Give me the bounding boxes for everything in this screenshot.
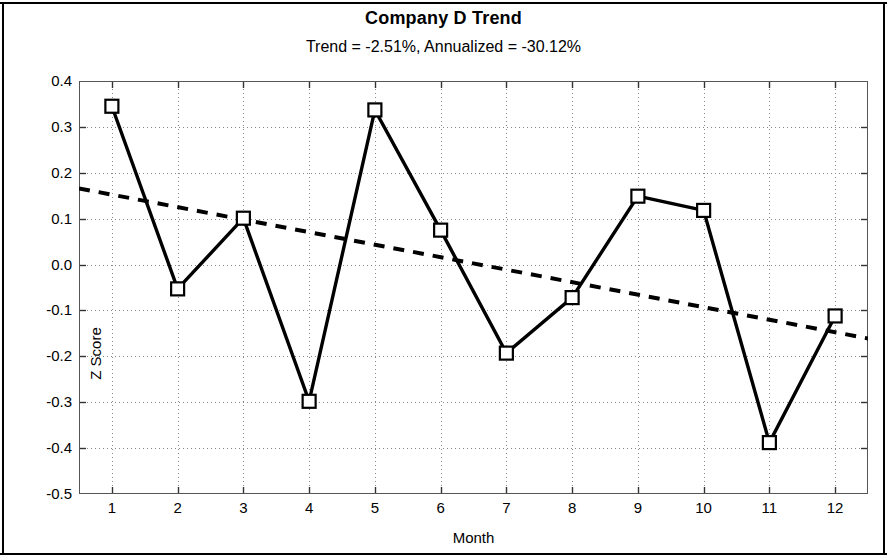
y-tick-label: -0.2 <box>28 348 72 363</box>
x-tick-label: 6 <box>421 500 461 515</box>
chart-title: Company D Trend <box>0 8 887 29</box>
data-point-marker <box>171 282 184 295</box>
x-tick-label: 3 <box>223 500 263 515</box>
data-point-marker <box>631 190 644 203</box>
x-axis-title: Month <box>79 529 868 546</box>
x-tick-label: 10 <box>684 500 724 515</box>
data-point-marker <box>368 103 381 116</box>
data-point-marker <box>697 204 710 217</box>
x-tick-label: 12 <box>815 500 855 515</box>
x-tick-label: 5 <box>355 500 395 515</box>
x-tick-label: 1 <box>92 500 132 515</box>
trend-line <box>79 188 868 338</box>
y-tick-label: 0.4 <box>28 73 72 88</box>
y-tick-label: 0.3 <box>28 119 72 134</box>
y-tick-label: 0.0 <box>28 257 72 272</box>
data-point-marker <box>105 100 118 113</box>
x-tick-label: 11 <box>749 500 789 515</box>
plot-svg <box>79 81 868 494</box>
plot-area: Z Score <box>79 81 868 494</box>
y-tick-label: -0.5 <box>28 486 72 501</box>
x-tick-label: 7 <box>486 500 526 515</box>
chart-subtitle: Trend = -2.51%, Annualized = -30.12% <box>0 38 887 56</box>
figure-border-right <box>883 2 885 555</box>
y-axis-title: Z Score <box>87 294 104 414</box>
figure-border-top <box>0 2 887 4</box>
data-series-line <box>112 106 835 442</box>
x-tick-label: 4 <box>289 500 329 515</box>
grid-lines <box>79 81 868 494</box>
tick-marks <box>79 81 868 494</box>
data-point-marker <box>303 395 316 408</box>
y-tick-label: 0.2 <box>28 165 72 180</box>
chart-figure: Company D Trend Trend = -2.51%, Annualiz… <box>0 0 887 559</box>
figure-border-left <box>2 2 4 555</box>
data-point-marker <box>237 212 250 225</box>
y-tick-label: -0.4 <box>28 440 72 455</box>
y-tick-label: -0.3 <box>28 394 72 409</box>
x-tick-label: 9 <box>618 500 658 515</box>
y-tick-label: -0.1 <box>28 302 72 317</box>
x-tick-label: 2 <box>158 500 198 515</box>
x-tick-label: 8 <box>552 500 592 515</box>
data-point-marker <box>434 224 447 237</box>
figure-border-bottom <box>0 553 887 555</box>
x-axis-tick-labels: 123456789101112 <box>79 500 868 524</box>
data-point-marker <box>500 347 513 360</box>
data-point-marker <box>763 436 776 449</box>
y-axis-tick-labels: 0.40.30.20.10.0-0.1-0.2-0.3-0.4-0.5 <box>22 81 72 494</box>
data-markers <box>105 100 841 449</box>
plot-border <box>80 82 868 494</box>
y-tick-label: 0.1 <box>28 211 72 226</box>
data-point-marker <box>566 291 579 304</box>
data-point-marker <box>829 309 842 322</box>
